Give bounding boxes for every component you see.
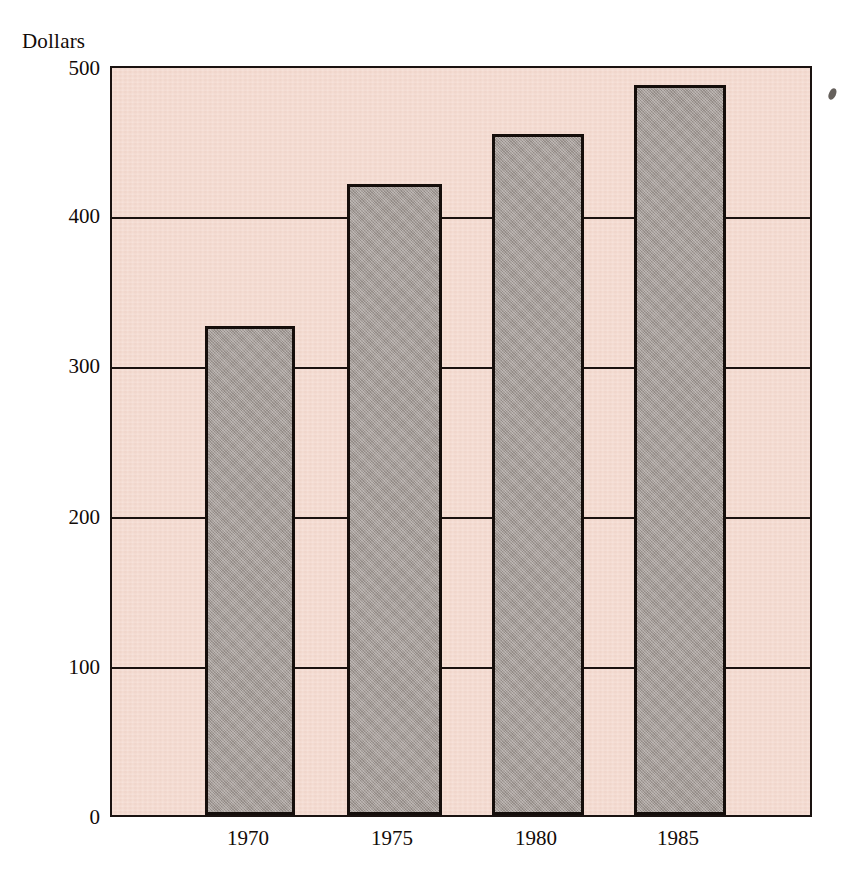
bar-1980[interactable] <box>492 134 584 815</box>
bar-1970[interactable] <box>205 326 295 815</box>
y-tick-label-200: 200 <box>69 507 101 528</box>
plot-area <box>110 66 812 817</box>
bar-1985[interactable] <box>634 85 726 815</box>
bar-1975[interactable] <box>347 184 442 815</box>
y-axis-tick-labels: 500 400 300 200 100 0 <box>0 0 100 872</box>
y-tick-label-300: 300 <box>69 356 101 377</box>
x-axis-tick-labels: 1970 1975 1980 1985 <box>110 826 812 860</box>
bar-chart-figure: Dollars 500 400 300 200 100 0 1970 1975 … <box>0 0 852 872</box>
ink-speck <box>827 87 839 101</box>
y-tick-label-400: 400 <box>69 206 101 227</box>
x-tick-label-1975: 1975 <box>371 826 413 850</box>
y-tick-label-500: 500 <box>69 58 101 79</box>
x-tick-label-1970: 1970 <box>227 826 269 850</box>
y-tick-label-100: 100 <box>69 657 101 678</box>
y-tick-label-0: 0 <box>90 807 101 828</box>
x-tick-label-1985: 1985 <box>657 826 699 850</box>
x-tick-label-1980: 1980 <box>515 826 557 850</box>
